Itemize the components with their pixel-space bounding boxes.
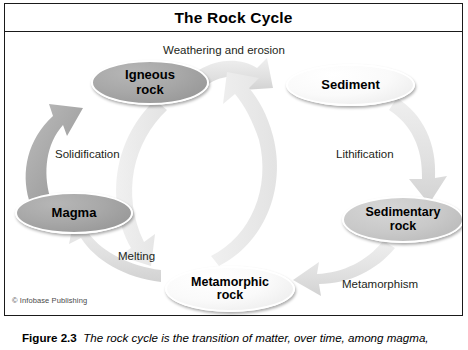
node-magma-label-line1: Magma (52, 206, 97, 220)
node-metamorphic-rock-label-line2: rock (191, 289, 269, 303)
node-sedimentary-rock[interactable]: Sedimentary rock (342, 196, 462, 243)
edge-label-metamorphism: Metamorphism (342, 278, 418, 290)
node-igneous-rock[interactable]: Igneous rock (91, 60, 209, 105)
node-igneous-rock-label-line2: rock (125, 83, 175, 97)
edge-label-lithification: Lithification (336, 148, 394, 160)
arrow-igneous-to-metamorphic-inner (116, 100, 167, 266)
page-title: The Rock Cycle (174, 9, 292, 27)
arrow-metamorphic-to-sediment-inner (211, 72, 277, 266)
node-metamorphic-rock[interactable]: Metamorphic rock (165, 266, 295, 312)
arrow-sediment-to-sedimentary (389, 98, 447, 204)
edge-label-solidification: Solidification (55, 148, 120, 160)
node-sedimentary-rock-label-line2: rock (365, 220, 440, 234)
node-magma[interactable]: Magma (15, 192, 133, 234)
figure-title-bar: The Rock Cycle (5, 4, 462, 32)
node-sediment-label-line1: Sediment (321, 78, 380, 92)
node-igneous-rock-label-line1: Igneous (125, 68, 175, 82)
figure-caption-text: The rock cycle is the transition of matt… (83, 331, 428, 344)
figure-caption: Figure 2.3 The rock cycle is the transit… (22, 330, 458, 345)
publisher-credit: © Infobase Publishing (12, 296, 87, 305)
rock-cycle-diagram: Igneous rock Sediment Sedimentary rock M… (5, 32, 462, 315)
node-sedimentary-rock-label-line1: Sedimentary (365, 206, 440, 220)
node-sediment[interactable]: Sediment (286, 64, 415, 106)
node-metamorphic-rock-label-line1: Metamorphic (191, 276, 269, 290)
edge-label-weathering-and-erosion: Weathering and erosion (163, 44, 285, 56)
edge-label-melting: Melting (118, 250, 155, 262)
figure-frame: The Rock Cycle (4, 3, 463, 316)
figure-caption-number: Figure 2.3 (22, 331, 77, 344)
